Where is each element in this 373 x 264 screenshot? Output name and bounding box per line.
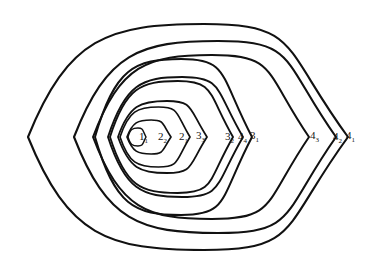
label-4-4: 44 bbox=[238, 131, 247, 145]
oval-curve-4_2 bbox=[74, 41, 336, 233]
label-3-2-subscript: 2 bbox=[231, 137, 235, 145]
label-4-4-subscript: 4 bbox=[244, 137, 248, 145]
label-4-3: 43 bbox=[310, 130, 319, 144]
label-1-1: 11 bbox=[139, 131, 148, 145]
label-4-3-subscript: 3 bbox=[316, 136, 320, 144]
label-4-2: 42 bbox=[333, 131, 342, 145]
label-2-2: 22 bbox=[158, 131, 167, 145]
label-4-1: 41 bbox=[346, 130, 355, 144]
label-3-2: 32 bbox=[225, 131, 234, 145]
oval-family-figure: 11222133324431434241 bbox=[0, 0, 373, 264]
label-1-1-subscript: 1 bbox=[145, 137, 149, 145]
label-3-3: 33 bbox=[196, 130, 205, 144]
label-4-1-subscript: 1 bbox=[352, 136, 356, 144]
label-3-1: 31 bbox=[250, 130, 259, 144]
label-3-1-subscript: 1 bbox=[256, 136, 260, 144]
label-4-2-subscript: 2 bbox=[339, 137, 343, 145]
label-2-1: 21 bbox=[179, 131, 188, 145]
label-2-1-subscript: 1 bbox=[185, 137, 189, 145]
oval-curve-4_1 bbox=[28, 24, 348, 250]
label-2-2-subscript: 2 bbox=[164, 137, 168, 145]
oval-curves-group bbox=[28, 24, 348, 250]
label-3-3-subscript: 3 bbox=[202, 136, 206, 144]
